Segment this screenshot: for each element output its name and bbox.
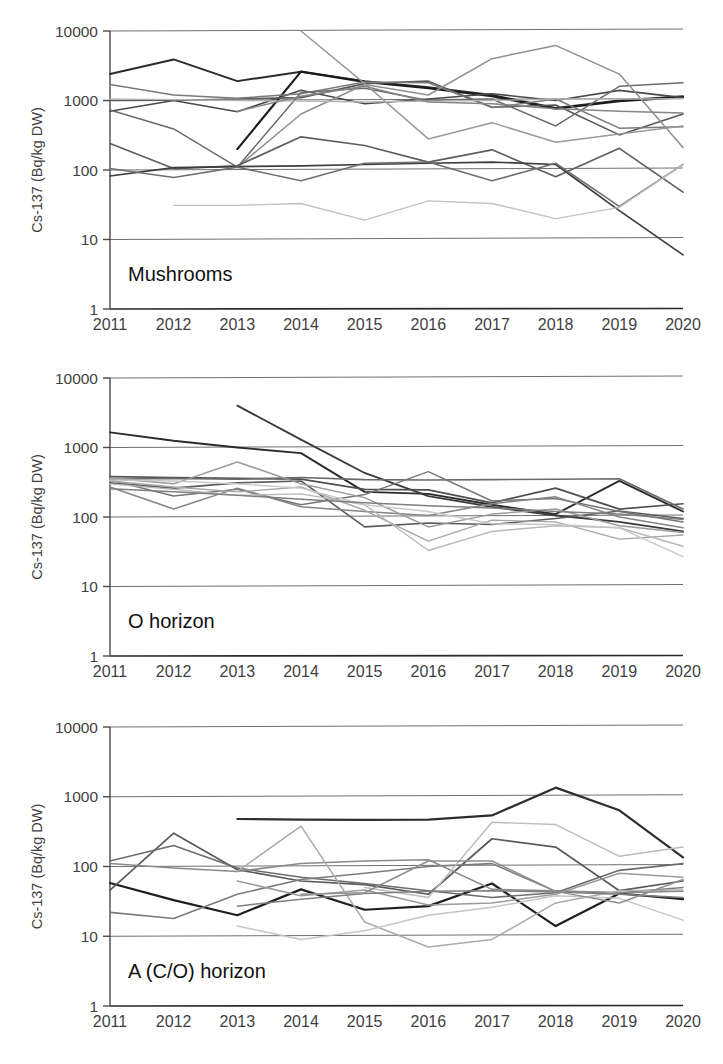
y-tick-label-10: 10 xyxy=(81,928,99,945)
series-group xyxy=(110,31,683,255)
panel-title-label: Mushrooms xyxy=(128,263,232,285)
x-tick-label-2014: 2014 xyxy=(283,1013,319,1030)
series-group xyxy=(110,788,683,947)
x-tick-label-2018: 2018 xyxy=(538,663,574,680)
x-tick-label-2019: 2019 xyxy=(602,316,638,333)
x-tick-label-2015: 2015 xyxy=(347,1013,383,1030)
x-tick-label-2019: 2019 xyxy=(602,1013,638,1030)
axis-baseline xyxy=(110,1006,683,1007)
panel-title-label: O horizon xyxy=(128,610,215,632)
x-tick-label-2012: 2012 xyxy=(156,663,192,680)
y-tick-label-1: 1 xyxy=(89,648,98,665)
x-tick-label-2017: 2017 xyxy=(474,316,510,333)
gridline-1000 xyxy=(110,795,683,797)
x-tick-label-2019: 2019 xyxy=(602,663,638,680)
y-tick-label-1000: 1000 xyxy=(64,439,99,456)
x-tick-label-2015: 2015 xyxy=(347,316,383,333)
gridline-1000 xyxy=(110,446,683,448)
x-tick-label-2016: 2016 xyxy=(411,663,447,680)
series-line-site-02 xyxy=(237,406,683,532)
x-tick-label-2013: 2013 xyxy=(220,316,256,333)
series-line-site-01 xyxy=(237,788,683,858)
x-tick-label-2017: 2017 xyxy=(474,1013,510,1030)
y-tick-label-10000: 10000 xyxy=(55,719,98,736)
x-tick-label-2020: 2020 xyxy=(665,663,701,680)
y-tick-label-10: 10 xyxy=(81,231,99,248)
series-line-site-08 xyxy=(237,826,683,947)
gridline-10000 xyxy=(110,29,683,31)
x-tick-label-2012: 2012 xyxy=(156,1013,192,1030)
gridline-10 xyxy=(110,585,683,587)
series-line-site-03 xyxy=(110,833,683,894)
x-tick-label-2018: 2018 xyxy=(538,1013,574,1030)
gridline-10000 xyxy=(110,725,683,727)
y-tick-label-10000: 10000 xyxy=(55,23,98,40)
x-tick-label-2014: 2014 xyxy=(283,663,319,680)
gridline-10 xyxy=(110,238,683,240)
y-axis-title: Cs-137 (Bq/kg DW) xyxy=(29,804,45,930)
x-tick-label-2016: 2016 xyxy=(411,1013,447,1030)
y-tick-label-10000: 10000 xyxy=(55,370,98,387)
panel-a-co-horizon-plot: 100001000100101Cs-137 (Bq/kg DW)20112012… xyxy=(0,694,723,1064)
series-line-site-05 xyxy=(110,864,683,919)
x-tick-label-2011: 2011 xyxy=(93,1013,128,1030)
x-tick-label-2011: 2011 xyxy=(93,316,128,333)
series-group xyxy=(110,406,683,557)
x-tick-label-2014: 2014 xyxy=(283,316,319,333)
x-tick-label-2017: 2017 xyxy=(474,663,510,680)
axis-baseline xyxy=(110,656,683,657)
x-tick-label-2012: 2012 xyxy=(156,316,192,333)
y-tick-label-1: 1 xyxy=(89,998,98,1015)
x-tick-label-2013: 2013 xyxy=(220,1013,256,1030)
series-line-site-12 xyxy=(174,165,683,221)
series-line-site-10 xyxy=(110,162,683,255)
y-tick-label-100: 100 xyxy=(72,162,98,179)
gridline-10000 xyxy=(110,376,683,378)
y-tick-label-100: 100 xyxy=(72,509,98,526)
y-axis-title: Cs-137 (Bq/kg DW) xyxy=(29,107,45,233)
gridline-100 xyxy=(110,515,683,517)
y-tick-label-100: 100 xyxy=(72,858,98,875)
gridline-100 xyxy=(110,865,683,867)
x-tick-label-2011: 2011 xyxy=(93,663,128,680)
y-tick-label-1000: 1000 xyxy=(64,788,99,805)
panel-mushrooms-plot: 100001000100101Cs-137 (Bq/kg DW)20112012… xyxy=(0,0,723,355)
y-tick-label-10: 10 xyxy=(81,578,99,595)
panel-o-horizon: 100001000100101Cs-137 (Bq/kg DW)20112012… xyxy=(0,345,723,700)
panel-o-horizon-plot: 100001000100101Cs-137 (Bq/kg DW)20112012… xyxy=(0,345,723,700)
figure-cs137-panels: 100001000100101Cs-137 (Bq/kg DW)20112012… xyxy=(0,0,723,1064)
y-axis-title: Cs-137 (Bq/kg DW) xyxy=(29,454,45,580)
x-tick-label-2016: 2016 xyxy=(411,316,447,333)
panel-a-co-horizon: 100001000100101Cs-137 (Bq/kg DW)20112012… xyxy=(0,694,723,1064)
x-tick-label-2020: 2020 xyxy=(665,1013,701,1030)
y-tick-label-1000: 1000 xyxy=(64,92,99,109)
series-line-site-08 xyxy=(110,462,683,532)
x-tick-label-2018: 2018 xyxy=(538,316,574,333)
x-tick-label-2015: 2015 xyxy=(347,663,383,680)
axis-baseline xyxy=(110,309,683,310)
y-tick-label-1: 1 xyxy=(89,301,98,318)
x-tick-label-2020: 2020 xyxy=(665,316,701,333)
panel-title-label: A (C/O) horizon xyxy=(128,960,266,982)
x-tick-label-2013: 2013 xyxy=(220,663,256,680)
panel-mushrooms: 100001000100101Cs-137 (Bq/kg DW)20112012… xyxy=(0,0,723,355)
